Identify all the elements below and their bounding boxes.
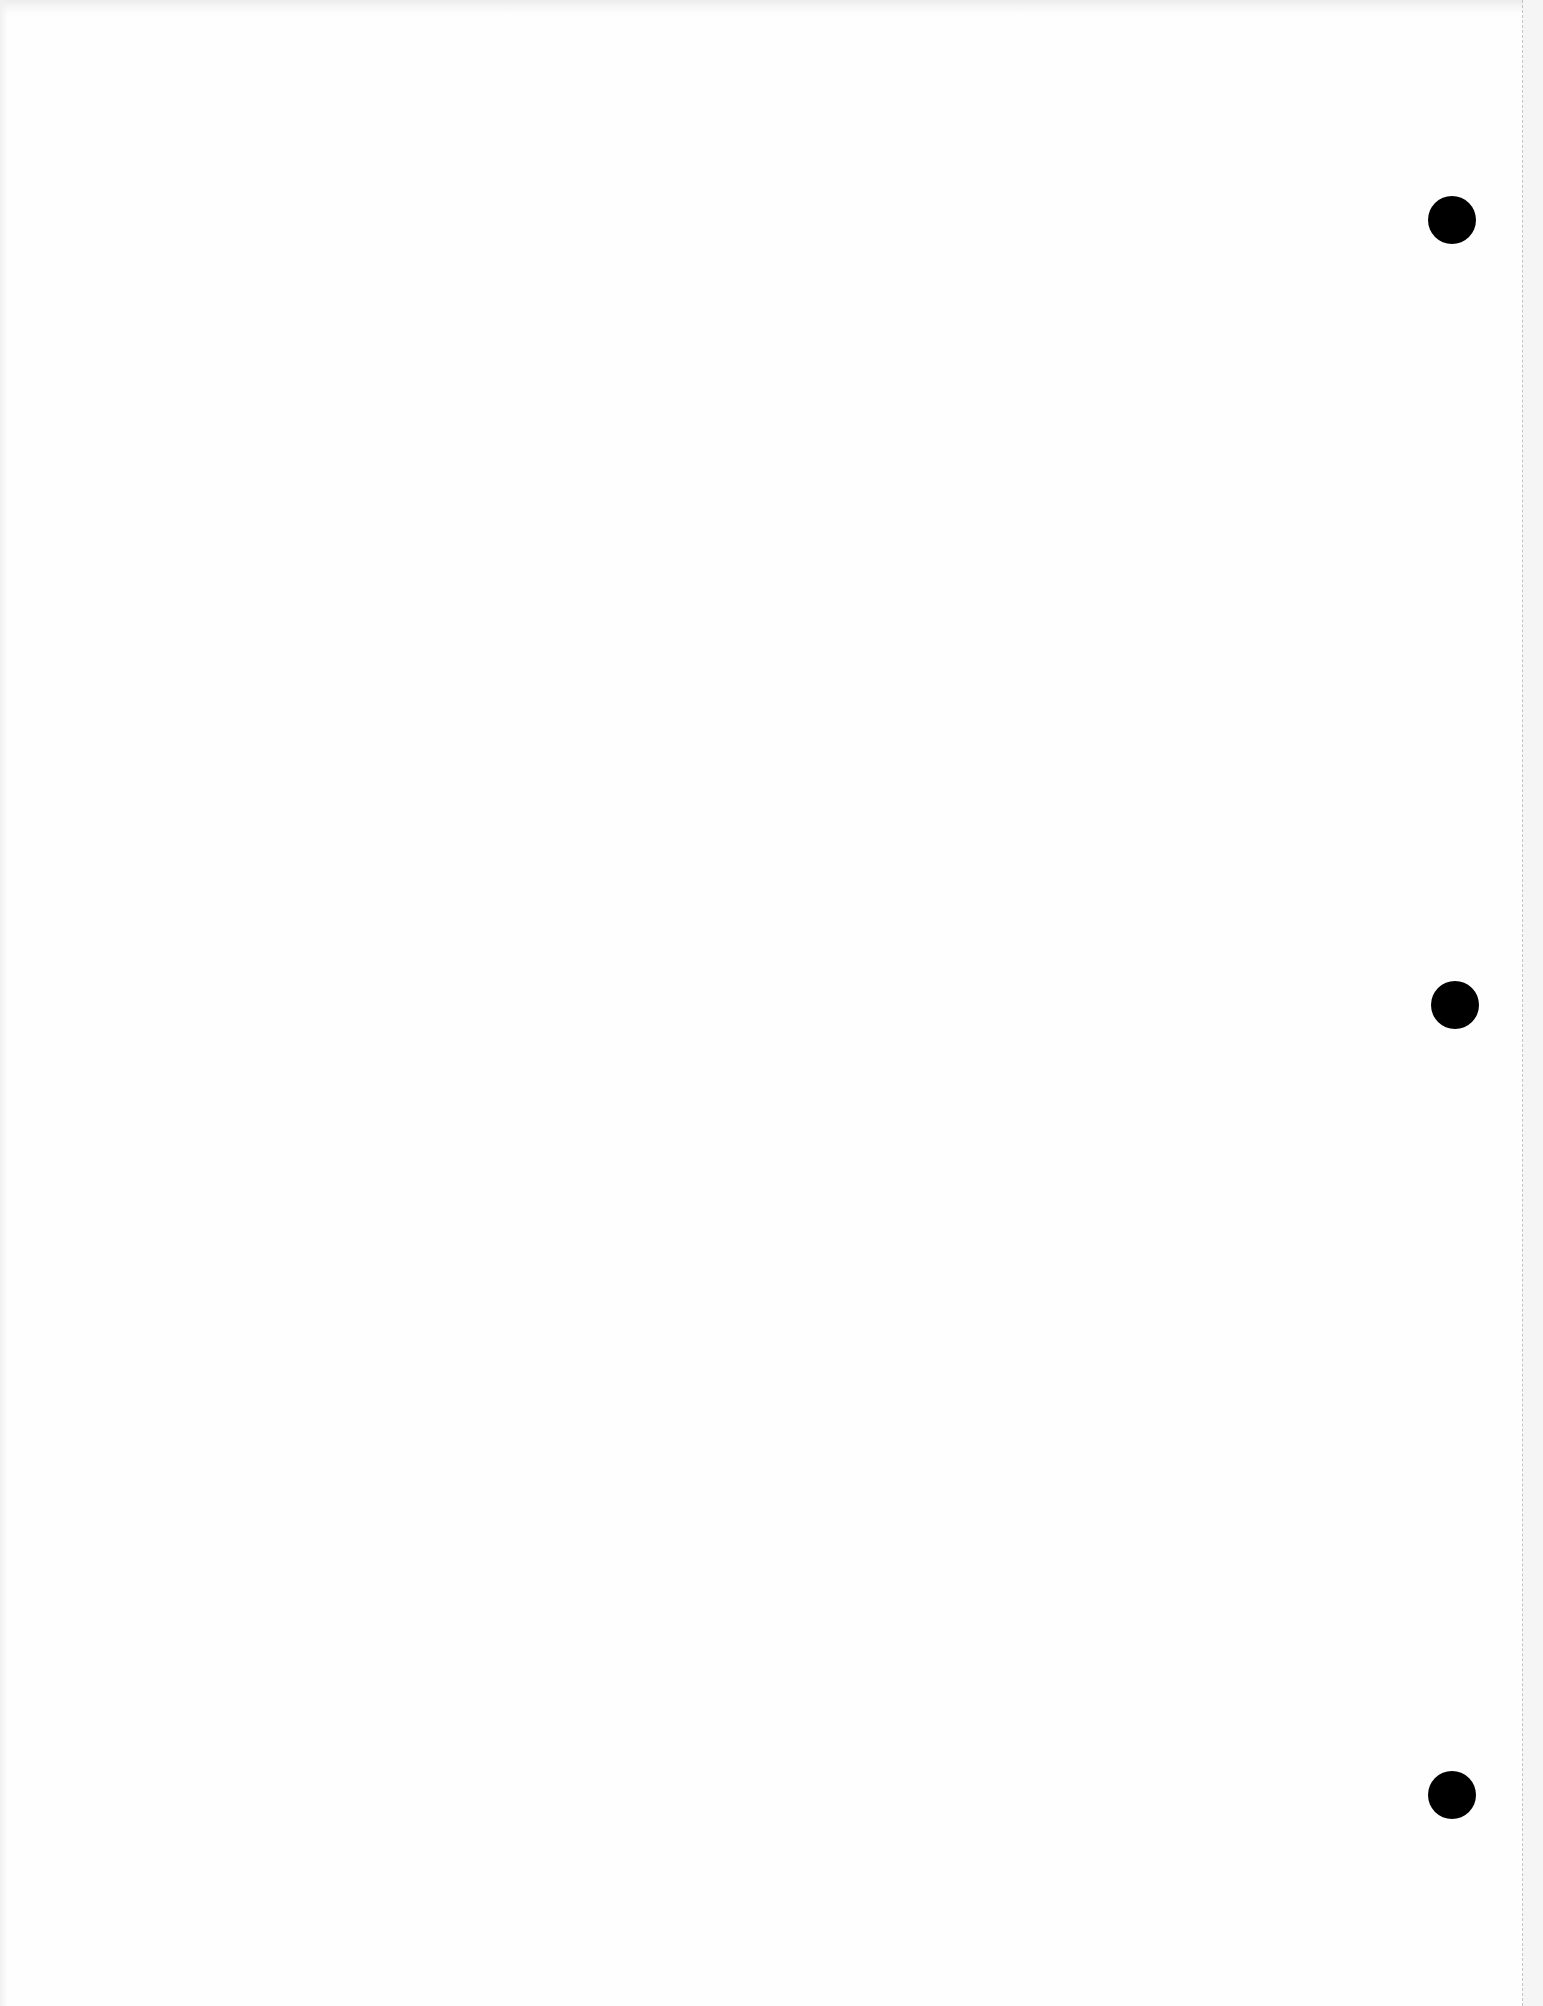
punch-hole-3 [1428,1771,1476,1819]
tear-off-strip [1523,0,1543,2006]
punch-hole-1 [1428,196,1476,244]
punch-hole-2 [1431,981,1479,1029]
scan-left-edge-shadow [0,0,8,2006]
scan-top-edge-shadow [0,0,1542,14]
perforation-line [1522,0,1523,2006]
